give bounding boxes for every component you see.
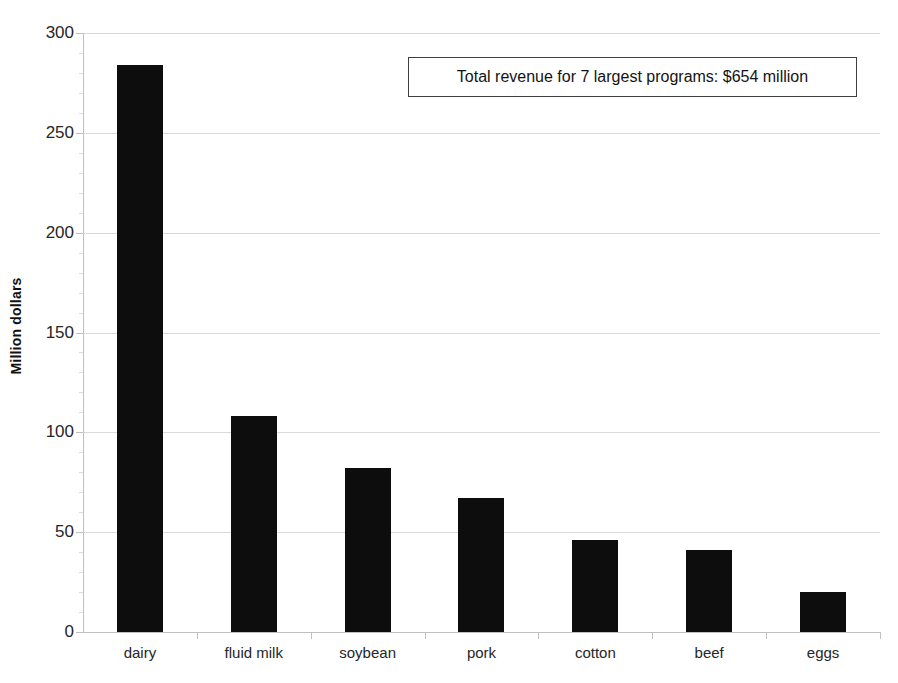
y-axis-tick-label: 200 <box>18 224 74 241</box>
bar <box>231 416 277 632</box>
total-revenue-callout-label: Total revenue for 7 largest programs: $6… <box>457 68 808 86</box>
bar-group <box>538 33 652 632</box>
bar-group <box>652 33 766 632</box>
y-axis-tick-label: 150 <box>18 324 74 341</box>
y-axis-minor-tick <box>79 372 83 373</box>
bar <box>458 498 504 632</box>
y-axis-minor-tick <box>79 153 83 154</box>
x-axis-tick <box>652 632 653 639</box>
y-axis-minor-tick <box>79 253 83 254</box>
bar-group <box>766 33 880 632</box>
bar <box>800 592 846 632</box>
x-axis-tick <box>311 632 312 639</box>
x-axis-category-label: cotton <box>538 644 652 661</box>
x-axis-category-label: soybean <box>311 644 425 661</box>
x-axis-category-label: dairy <box>83 644 197 661</box>
y-axis-minor-tick <box>79 53 83 54</box>
y-axis-minor-tick <box>79 352 83 353</box>
y-axis-minor-tick <box>79 492 83 493</box>
bar-group <box>83 33 197 632</box>
y-axis-minor-tick <box>79 173 83 174</box>
x-axis-category-label: fluid milk <box>197 644 311 661</box>
y-axis-minor-tick <box>79 313 83 314</box>
y-axis-minor-tick <box>79 452 83 453</box>
y-axis-tick <box>76 333 83 334</box>
x-axis-category-label: eggs <box>766 644 880 661</box>
bar-group <box>197 33 311 632</box>
y-axis-tick <box>76 632 83 633</box>
y-axis-minor-tick <box>79 512 83 513</box>
y-axis-tick-label: 50 <box>18 523 74 540</box>
y-axis-tick <box>76 133 83 134</box>
y-axis-tick-labels: 050100150200250300 <box>10 0 74 683</box>
chart-title <box>120 0 780 2</box>
y-axis-tick-label: 0 <box>18 623 74 640</box>
bar <box>572 540 618 632</box>
x-axis-tick <box>880 632 881 639</box>
x-axis-tick <box>766 632 767 639</box>
bar <box>686 550 732 632</box>
x-axis-category-label: beef <box>652 644 766 661</box>
y-axis-minor-tick <box>79 93 83 94</box>
y-axis-minor-tick <box>79 592 83 593</box>
x-axis-tick <box>538 632 539 639</box>
x-axis-category-label: pork <box>425 644 539 661</box>
y-axis-minor-tick <box>79 612 83 613</box>
y-axis-tick-label: 250 <box>18 124 74 141</box>
y-axis-minor-tick <box>79 392 83 393</box>
bar-group <box>425 33 539 632</box>
y-axis-tick <box>76 233 83 234</box>
bar-chart-figure: Million dollars 050100150200250300 dairy… <box>0 0 898 683</box>
x-axis-line <box>83 632 881 633</box>
y-axis-minor-tick <box>79 572 83 573</box>
x-axis-tick <box>425 632 426 639</box>
y-axis-minor-tick <box>79 213 83 214</box>
bar <box>345 468 391 632</box>
y-axis-minor-tick <box>79 113 83 114</box>
x-axis-tick <box>197 632 198 639</box>
total-revenue-callout: Total revenue for 7 largest programs: $6… <box>408 57 857 97</box>
y-axis-tick <box>76 33 83 34</box>
y-axis-minor-tick <box>79 412 83 413</box>
plot-area <box>83 33 880 632</box>
y-axis-tick-label: 100 <box>18 423 74 440</box>
y-axis-minor-tick <box>79 472 83 473</box>
y-axis-tick <box>76 432 83 433</box>
y-axis-minor-tick <box>79 552 83 553</box>
y-axis-minor-tick <box>79 193 83 194</box>
y-axis-minor-tick <box>79 273 83 274</box>
bar-group <box>311 33 425 632</box>
y-axis-tick-label: 300 <box>18 24 74 41</box>
y-axis-minor-tick <box>79 293 83 294</box>
y-axis-tick <box>76 532 83 533</box>
bar <box>117 65 163 632</box>
y-axis-minor-tick <box>79 73 83 74</box>
